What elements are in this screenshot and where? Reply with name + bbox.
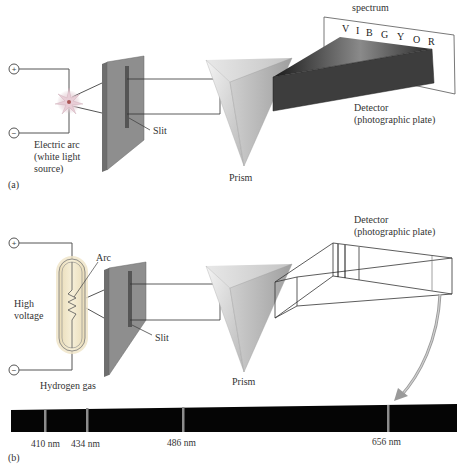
emission-line-486 — [182, 407, 185, 432]
negative-terminal-a: − — [9, 128, 19, 138]
arc-label: Arc — [96, 252, 112, 263]
slit-plate-b — [104, 262, 152, 377]
panel-a-tag: (a) — [8, 179, 19, 191]
source-label-line3: source) — [34, 163, 63, 175]
wavelength-label-410: 410 nm — [31, 439, 60, 449]
hydrogen-gas-label: Hydrogen gas — [40, 380, 96, 391]
prism-b — [206, 264, 292, 372]
svg-text:−: − — [12, 366, 17, 375]
detector-label-b-line2: (photographic plate) — [354, 226, 435, 238]
slit-label-b: Slit — [155, 332, 169, 343]
source-label-line1: Electric arc — [34, 139, 80, 150]
detector-label-a-line1: Detector — [354, 102, 389, 113]
svg-text:I: I — [356, 25, 360, 36]
emission-line-410 — [44, 409, 47, 432]
svg-text:Y: Y — [397, 31, 405, 42]
prism-label-b: Prism — [232, 376, 256, 387]
emission-line-656 — [387, 405, 390, 432]
detector-label-b-line1: Detector — [354, 214, 389, 225]
spectrum-title: spectrum — [352, 2, 389, 13]
svg-text:+: + — [12, 239, 17, 248]
hydrogen-line-spectrum — [11, 404, 457, 432]
curved-arrow-icon — [394, 294, 440, 401]
wavelength-label-656: 656 nm — [372, 437, 401, 447]
panel-b-tag: (b) — [8, 452, 20, 464]
dispersed-beam-a — [273, 37, 434, 111]
detector-label-a-line2: (photographic plate) — [354, 114, 435, 126]
detector-projection-b — [275, 243, 452, 318]
svg-text:R: R — [428, 36, 436, 47]
svg-text:−: − — [12, 129, 17, 138]
prism-label-a: Prism — [229, 172, 253, 183]
voltage-label-line1: High — [14, 298, 34, 309]
svg-text:G: G — [381, 29, 389, 40]
slit-label-a: Slit — [153, 125, 167, 136]
hydrogen-discharge-tube — [56, 256, 98, 354]
svg-text:+: + — [12, 65, 17, 74]
svg-text:B: B — [366, 27, 374, 38]
svg-text:O: O — [413, 34, 421, 45]
panel-a: + − Electric arc (white light source) (a… — [8, 2, 455, 191]
positive-terminal-a: + — [9, 64, 19, 74]
wavelength-label-434: 434 nm — [71, 439, 100, 449]
voltage-label-line2: voltage — [14, 310, 44, 321]
source-label-line2: (white light — [34, 151, 81, 163]
wavelength-label-486: 486 nm — [167, 438, 196, 448]
spectroscopy-diagram: + − Electric arc (white light source) (a… — [0, 0, 460, 464]
panel-b: + − Arc High voltage Hydrogen gas Slit — [8, 214, 457, 464]
negative-terminal-b: − — [9, 365, 19, 375]
svg-text:V: V — [342, 23, 350, 34]
positive-terminal-b: + — [9, 238, 19, 248]
electric-arc-spark-icon — [55, 88, 83, 114]
emission-line-434 — [86, 408, 89, 432]
